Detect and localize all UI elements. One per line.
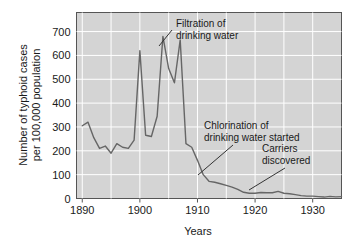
y-axis-title-line1: Number of typhoid cases <box>17 44 29 166</box>
x-tick-label: 1910 <box>185 204 209 216</box>
x-tick-label: 1900 <box>128 204 152 216</box>
y-axis-title-line2: per 100,000 population <box>30 49 42 162</box>
typhoid-cases-line-chart: 0100200300400500600700 18901900191019201… <box>0 0 359 251</box>
annotation-chlorination-line1: Chlorination of <box>204 120 269 131</box>
annotation-filtration-line2: drinking water <box>176 30 239 41</box>
x-tick-label: 1920 <box>243 204 267 216</box>
chart-figure: 0100200300400500600700 18901900191019201… <box>0 0 359 251</box>
y-tick-label: 400 <box>52 97 70 109</box>
y-tick-label: 300 <box>52 121 70 133</box>
y-tick-label: 700 <box>52 26 70 38</box>
y-tick-label: 600 <box>52 49 70 61</box>
annotation-carriers-line2: discovered <box>262 155 310 166</box>
y-tick-label: 100 <box>52 169 70 181</box>
annotation-carriers-line1: Carriers <box>262 143 298 154</box>
annotation-chlorination-line2: drinking water started <box>204 132 300 143</box>
annotation-filtration-line1: Filtration of <box>176 18 226 29</box>
y-tick-label: 500 <box>52 73 70 85</box>
x-tick-label: 1930 <box>300 204 324 216</box>
x-axis-title: Years <box>184 225 212 237</box>
x-tick-label: 1890 <box>70 204 94 216</box>
y-tick-label: 200 <box>52 145 70 157</box>
